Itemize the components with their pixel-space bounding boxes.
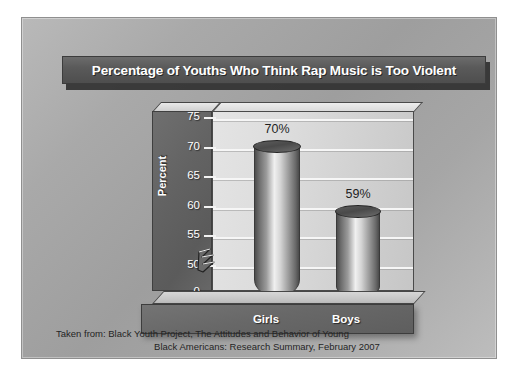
chart-area: Percent 75 70 65 60 55 50 0 70% — [144, 102, 429, 317]
y-tick-label-60: 60 — [166, 199, 200, 211]
y-tick-label-50: 50 — [166, 258, 200, 270]
y-tick-rule-75 — [204, 117, 216, 119]
gridline-65 — [213, 178, 413, 180]
bar-girls[interactable] — [254, 147, 300, 296]
y-tick-rule-70 — [204, 147, 216, 149]
y-tick-label-55: 55 — [166, 228, 200, 240]
y-tick-rule-65 — [204, 176, 216, 178]
gridline-55 — [213, 237, 413, 239]
bar-girls-body — [254, 147, 300, 296]
bar-value-boys: 59% — [326, 187, 390, 201]
source-footnote: Taken from: Black Youth Project, The Att… — [52, 327, 468, 353]
base-slab-top — [152, 291, 426, 304]
gridline-50 — [213, 267, 413, 269]
bar-boys[interactable] — [336, 212, 380, 296]
gridline-60 — [213, 208, 413, 210]
bar-girls-top-ellipse — [253, 140, 301, 153]
chart-title-bar: Percentage of Youths Who Think Rap Music… — [62, 56, 486, 84]
y-tick-label-65: 65 — [166, 169, 200, 181]
bar-value-girls: 70% — [245, 122, 309, 136]
footnote-line-2: Black Americans: Research Summary, Febru… — [52, 340, 468, 353]
slide-canvas: Percentage of Youths Who Think Rap Music… — [21, 17, 497, 359]
footnote-line-1: Taken from: Black Youth Project, The Att… — [52, 327, 468, 340]
y-tick-label-75: 75 — [166, 110, 200, 122]
axis-break-icon — [196, 248, 218, 274]
plot-wall — [212, 111, 414, 291]
y-tick-rule-55 — [204, 235, 216, 237]
category-label-girls: Girls — [234, 313, 298, 325]
gridline-75 — [213, 119, 413, 121]
bar-boys-top-ellipse — [335, 205, 381, 218]
y-tick-rule-60 — [204, 206, 216, 208]
bar-boys-body — [336, 212, 380, 296]
y-tick-label-70: 70 — [166, 140, 200, 152]
page-title: Percentage of Youths Who Think Rap Music… — [92, 63, 456, 78]
category-label-boys: Boys — [314, 313, 378, 325]
gridline-70 — [213, 149, 413, 151]
